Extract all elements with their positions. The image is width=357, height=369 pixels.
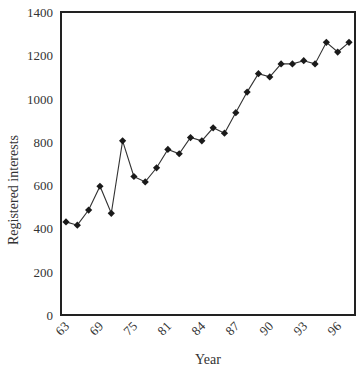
x-tick-label: 81 xyxy=(154,319,174,339)
data-point-marker xyxy=(311,60,318,67)
data-point-marker xyxy=(164,146,171,153)
data-point-marker xyxy=(244,88,251,95)
x-tick-label: 75 xyxy=(120,319,140,339)
data-point-marker xyxy=(255,70,262,77)
x-tick-label: 87 xyxy=(222,318,242,338)
x-tick-label: 93 xyxy=(290,319,310,339)
x-tick-label: 84 xyxy=(188,318,208,338)
data-point-marker xyxy=(232,109,239,116)
data-point-marker xyxy=(62,218,69,225)
x-tick-label: 63 xyxy=(52,319,72,339)
data-point-marker xyxy=(96,183,103,190)
x-tick-label: 90 xyxy=(256,319,276,339)
data-point-marker xyxy=(221,130,228,137)
y-axis-ticks: 0200400600800100012001400 xyxy=(27,5,53,323)
y-tick-label: 1000 xyxy=(27,92,53,107)
data-point-marker xyxy=(176,150,183,157)
data-point-marker xyxy=(130,173,137,180)
y-tick-label: 0 xyxy=(47,308,54,323)
plot-frame xyxy=(61,12,355,315)
data-point-marker xyxy=(119,137,126,144)
y-axis-title: Registered interests xyxy=(6,135,21,245)
data-point-marker xyxy=(108,210,115,217)
y-tick-label: 200 xyxy=(34,265,54,280)
y-tick-label: 1400 xyxy=(27,5,53,20)
y-tick-label: 800 xyxy=(34,135,54,150)
data-point-marker xyxy=(300,57,307,64)
x-tick-label: 96 xyxy=(324,318,344,338)
y-tick-label: 1200 xyxy=(27,48,53,63)
series-line xyxy=(66,42,349,225)
data-point-marker xyxy=(187,134,194,141)
x-tick-label: 69 xyxy=(86,319,106,339)
y-tick-label: 600 xyxy=(34,178,54,193)
x-axis-title: Year xyxy=(195,352,221,367)
line-chart: 0200400600800100012001400 63697581848790… xyxy=(0,0,357,369)
data-point-marker xyxy=(289,60,296,67)
x-axis-ticks: 636975818487909396 xyxy=(52,318,344,338)
y-tick-label: 400 xyxy=(34,221,54,236)
